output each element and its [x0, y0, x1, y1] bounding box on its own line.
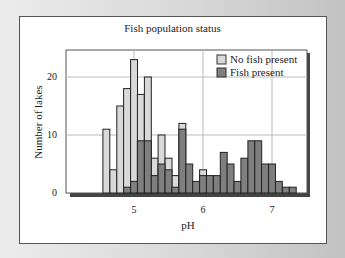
histogram-bar: [213, 176, 220, 193]
ytick-20: 20: [47, 71, 57, 82]
xtick-7: 7: [270, 204, 275, 215]
histogram-bar: [117, 106, 124, 193]
histogram-bar: [158, 164, 165, 193]
histogram-bar: [137, 141, 144, 193]
histogram-bar: [200, 176, 207, 193]
histogram-bar: [282, 187, 289, 193]
histogram-bar: [124, 89, 131, 193]
histogram-bar: [234, 181, 241, 193]
histogram-bar: [220, 152, 227, 193]
xtick-5: 5: [132, 204, 137, 215]
histogram-bar: [165, 170, 172, 193]
histogram-bar: [269, 164, 276, 193]
histogram-bar: [186, 164, 193, 193]
histogram-bar: [151, 176, 158, 193]
histogram-bar: [227, 164, 234, 193]
legend-label-fish: Fish present: [230, 66, 283, 78]
histogram-bar: [206, 176, 213, 193]
histogram-bar: [193, 181, 200, 193]
x-axis-label: pH: [181, 219, 195, 231]
histogram-bar: [103, 129, 110, 193]
histogram-bar: [124, 187, 131, 193]
legend-swatch-fish: [217, 68, 226, 77]
ytick-0: 0: [52, 187, 57, 198]
histogram-bar: [144, 141, 151, 193]
histogram-bar: [289, 187, 296, 193]
histogram-bar: [275, 181, 282, 193]
legend-label-no-fish: No fish present: [230, 53, 297, 65]
legend-swatch-no-fish: [217, 55, 226, 64]
y-axis-label: Number of lakes: [32, 85, 44, 158]
histogram-bar: [255, 141, 262, 193]
histogram-bar: [110, 170, 117, 193]
histogram-bar: [241, 158, 248, 193]
histogram-bar: [131, 181, 138, 193]
chart-svg: 20 10 0 5 6 7 pH Number of lakes No fish…: [0, 0, 345, 258]
ytick-10: 10: [47, 129, 57, 140]
histogram-bar: [248, 141, 255, 193]
histogram-bar: [179, 129, 186, 193]
xtick-6: 6: [201, 204, 206, 215]
histogram-bar: [172, 187, 179, 193]
histogram-bar: [262, 164, 269, 193]
histogram-bar: [131, 60, 138, 193]
